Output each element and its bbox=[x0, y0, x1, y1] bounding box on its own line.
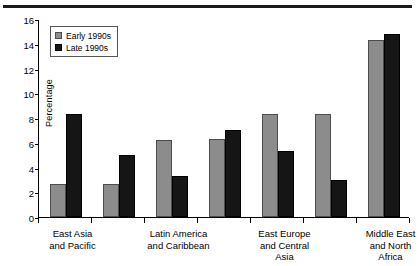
x-axis-label-line: Africa bbox=[336, 251, 420, 263]
x-tick-mark bbox=[91, 218, 92, 223]
bar-early-1990s bbox=[50, 184, 66, 217]
bar-early-1990s bbox=[156, 140, 172, 217]
bar-late-1990s bbox=[384, 34, 400, 217]
x-axis-label: East Asiaand Pacific bbox=[18, 228, 128, 251]
x-axis-label-line: and North bbox=[336, 240, 420, 252]
x-axis-label-line: East Europe bbox=[230, 228, 340, 240]
bar-group bbox=[262, 20, 294, 217]
x-axis-label-line: Latin America bbox=[124, 228, 234, 240]
bar-group bbox=[156, 20, 188, 217]
y-tick-label: 6 bbox=[0, 138, 39, 149]
y-tick-label: 4 bbox=[0, 163, 39, 174]
y-tick-label: 16 bbox=[0, 15, 39, 26]
x-tick-mark bbox=[409, 218, 410, 223]
legend-swatch-late-icon bbox=[55, 44, 62, 51]
bar-late-1990s bbox=[225, 130, 241, 217]
chart-legend: Early 1990s Late 1990s bbox=[50, 26, 118, 57]
x-axis-label: Middle Eastand NorthAfrica bbox=[336, 228, 420, 263]
x-tick-mark bbox=[303, 218, 304, 223]
y-tick-label: 8 bbox=[0, 114, 39, 125]
bar-early-1990s bbox=[209, 139, 225, 217]
y-tick-label: 12 bbox=[0, 64, 39, 75]
x-axis-label-line: Asia bbox=[230, 251, 340, 263]
top-rule-divider bbox=[3, 5, 412, 8]
bar-late-1990s bbox=[331, 180, 347, 217]
x-axis-label: East Europeand CentralAsia bbox=[230, 228, 340, 263]
bar-early-1990s bbox=[315, 114, 331, 217]
x-axis-label-line: and Central bbox=[230, 240, 340, 252]
bar-group bbox=[209, 20, 241, 217]
bar-group bbox=[368, 20, 400, 217]
bar-late-1990s bbox=[278, 151, 294, 217]
x-tick-mark bbox=[197, 218, 198, 223]
y-tick-label: 2 bbox=[0, 188, 39, 199]
legend-entry-early: Early 1990s bbox=[55, 30, 111, 41]
bar-early-1990s bbox=[103, 184, 119, 217]
x-tick-mark bbox=[250, 218, 251, 223]
bar-group bbox=[315, 20, 347, 217]
y-tick-label: 0 bbox=[0, 213, 39, 224]
bar-early-1990s bbox=[262, 114, 278, 217]
x-tick-mark bbox=[38, 218, 39, 223]
bar-late-1990s bbox=[119, 155, 135, 217]
legend-swatch-early-icon bbox=[55, 32, 62, 39]
legend-entry-late: Late 1990s bbox=[55, 42, 111, 53]
bar-late-1990s bbox=[66, 114, 82, 217]
y-tick-label: 10 bbox=[0, 89, 39, 100]
x-axis-label-line: and Pacific bbox=[18, 240, 128, 252]
bar-late-1990s bbox=[172, 176, 188, 217]
legend-label-early: Early 1990s bbox=[66, 31, 111, 41]
x-axis-label: Latin Americaand Caribbean bbox=[124, 228, 234, 251]
x-axis-label-line: East Asia bbox=[18, 228, 128, 240]
legend-label-late: Late 1990s bbox=[66, 43, 108, 53]
x-tick-mark bbox=[144, 218, 145, 223]
y-tick-label: 14 bbox=[0, 39, 39, 50]
x-axis-label-line: and Caribbean bbox=[124, 240, 234, 252]
x-axis-label-line: Middle East bbox=[336, 228, 420, 240]
x-tick-mark bbox=[356, 218, 357, 223]
bar-early-1990s bbox=[368, 40, 384, 217]
